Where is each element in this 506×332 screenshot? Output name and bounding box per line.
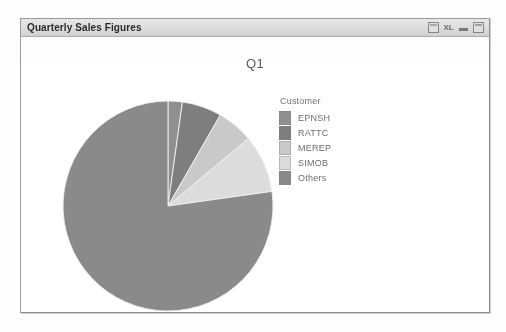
legend-label: Others (298, 173, 327, 183)
legend-items: EPNSHRATTCMEREPSIMOBOthers (279, 110, 389, 185)
legend-swatch (279, 126, 291, 140)
legend-label: MEREP (298, 143, 331, 153)
pie-chart-svg (23, 63, 323, 312)
legend-item[interactable]: EPNSH (279, 110, 389, 125)
legend-title: Customer (279, 96, 389, 106)
minimize-icon-glyph (459, 28, 468, 31)
pie-slice-group (63, 101, 273, 311)
chart-legend: Customer EPNSHRATTCMEREPSIMOBOthers (279, 96, 389, 185)
maximize-icon-glyph (473, 22, 484, 33)
legend-item[interactable]: MEREP (279, 140, 389, 155)
excel-export-icon-glyph: XL (443, 22, 454, 33)
legend-swatch (279, 171, 291, 185)
legend-label: EPNSH (298, 113, 330, 123)
legend-label: RATTC (298, 128, 329, 138)
legend-swatch (279, 111, 291, 125)
legend-item[interactable]: SIMOB (279, 155, 389, 170)
export-icon-glyph (428, 22, 439, 33)
minimize-icon[interactable] (458, 22, 469, 33)
chart-canvas: Q1 Customer EPNSHRATTCMEREPSIMOBOthers (21, 38, 489, 312)
export-icon[interactable] (428, 22, 439, 33)
excel-export-icon[interactable]: XL (443, 22, 454, 33)
maximize-icon[interactable] (473, 22, 484, 33)
report-window: Quarterly Sales Figures XL Q1 C (20, 18, 490, 313)
legend-swatch (279, 156, 291, 170)
pie-chart (23, 63, 323, 312)
window-title: Quarterly Sales Figures (27, 19, 142, 36)
legend-item[interactable]: RATTC (279, 125, 389, 140)
window-controls: XL (428, 22, 486, 33)
legend-item[interactable]: Others (279, 170, 389, 185)
legend-swatch (279, 141, 291, 155)
legend-label: SIMOB (298, 158, 328, 168)
title-bar[interactable]: Quarterly Sales Figures XL (21, 19, 489, 37)
